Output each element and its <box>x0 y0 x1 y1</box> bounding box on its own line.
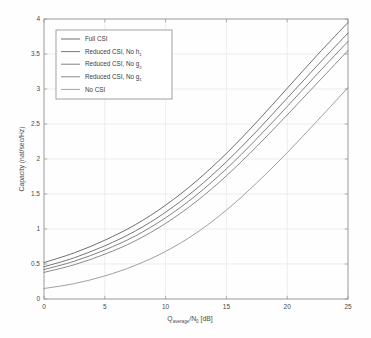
series-line <box>44 88 348 289</box>
y-tick-label: 3 <box>36 85 40 92</box>
x-tick-label: 20 <box>284 303 292 310</box>
legend-box: Full CSIReduced CSI, No h1Reduced CSI, N… <box>56 30 172 99</box>
x-tick-label: 10 <box>162 303 170 310</box>
y-axis-title: Capacity (nat/sec/Hz) <box>18 127 26 192</box>
figure-container: 051015202500.511.522.533.54 Qaverage/N0 … <box>0 0 371 338</box>
y-tick-label: 3.5 <box>31 50 40 57</box>
y-tick-label: 0.5 <box>31 260 40 267</box>
x-tick-label: 25 <box>344 303 352 310</box>
y-tick-label: 1.5 <box>31 190 40 197</box>
y-tick-label: 1 <box>36 225 40 232</box>
capacity-vs-qn0-line-chart: 051015202500.511.522.533.54 Qaverage/N0 … <box>0 0 371 338</box>
x-axis-title: Qaverage/N0 [dB] <box>167 315 212 324</box>
y-tick-label: 4 <box>36 15 40 22</box>
legend-label: No CSI <box>85 86 106 93</box>
x-tick-label: 5 <box>103 303 107 310</box>
y-tick-label: 2 <box>36 155 40 162</box>
x-tick-label: 0 <box>42 303 46 310</box>
legend-label: Full CSI <box>85 35 108 42</box>
axis-titles: Qaverage/N0 [dB]Capacity (nat/sec/Hz) <box>18 127 213 325</box>
y-tick-label: 2.5 <box>31 120 40 127</box>
x-tick-label: 15 <box>223 303 231 310</box>
y-tick-label: 0 <box>36 295 40 302</box>
